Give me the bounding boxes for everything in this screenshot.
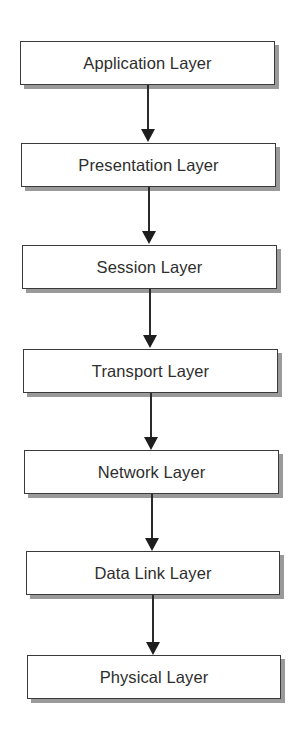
arrowhead (141, 129, 155, 142)
down-arrow-icon (141, 85, 155, 142)
arrowhead (142, 231, 156, 244)
arrow-shaft (151, 494, 153, 540)
arrow-shaft (152, 595, 154, 644)
physical-layer-box: Physical Layer (27, 655, 281, 699)
arrowhead (144, 437, 158, 450)
arrowhead (146, 642, 160, 655)
arrow-shaft (147, 85, 149, 131)
presentation-layer-box: Presentation Layer (21, 143, 276, 187)
layer-label: Session Layer (97, 258, 203, 277)
arrowhead (145, 538, 159, 551)
layer-label: Presentation Layer (78, 156, 218, 175)
arrowhead (143, 335, 157, 348)
osi-layer-diagram: Application Layer Presentation Layer Ses… (0, 0, 299, 738)
arrow-shaft (149, 289, 151, 337)
layer-label: Data Link Layer (94, 564, 211, 583)
arrow-shaft (150, 393, 152, 439)
layer-label: Network Layer (98, 463, 206, 482)
layer-label: Transport Layer (92, 362, 209, 381)
down-arrow-icon (142, 187, 156, 244)
down-arrow-icon (143, 289, 157, 348)
network-layer-box: Network Layer (24, 450, 279, 494)
down-arrow-icon (145, 494, 159, 551)
application-layer-box: Application Layer (20, 41, 275, 85)
down-arrow-icon (144, 393, 158, 450)
data-link-layer-box: Data Link Layer (26, 551, 280, 595)
down-arrow-icon (146, 595, 160, 655)
layer-label: Physical Layer (100, 668, 209, 687)
transport-layer-box: Transport Layer (23, 349, 278, 393)
arrow-shaft (148, 187, 150, 233)
layer-label: Application Layer (83, 54, 211, 73)
session-layer-box: Session Layer (22, 245, 277, 289)
